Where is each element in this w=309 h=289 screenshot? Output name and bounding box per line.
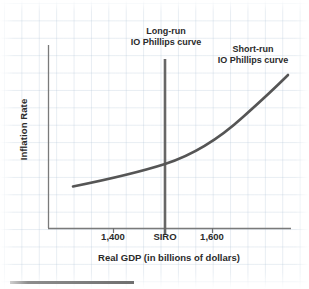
y-axis-title: Inflation Rate [18,84,29,176]
short-run-label-line-2: IO Phillips curve [203,55,303,66]
x-tick-label-siro: SIRO [143,231,187,242]
x-axis-title: Real GDP (in billions of dollars) [48,252,290,263]
x-tick-label-1400: 1,400 [91,231,135,242]
long-run-label-line-1: Long-run [112,26,220,37]
short-run-curve-label: Short-run IO Phillips curve [203,44,303,66]
x-tick-label-1600: 1,600 [190,231,234,242]
phillips-curve-chart: Long-run IO Phillips curve Short-run IO … [0,0,309,289]
footer-rule [10,281,134,284]
short-run-label-line-1: Short-run [203,44,303,55]
short-run-phillips-curve [73,75,288,187]
